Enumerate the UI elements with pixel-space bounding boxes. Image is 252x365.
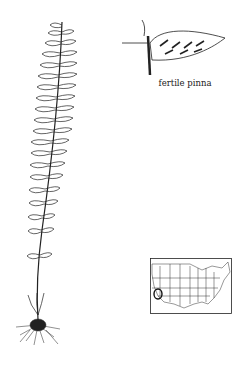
inset-caption: fertile pinna [150, 78, 220, 88]
pinnae [27, 23, 77, 259]
fertile-pinna-inset [120, 10, 230, 78]
roots [16, 319, 60, 345]
fern-illustration [0, 0, 130, 365]
rachis [37, 22, 62, 320]
range-map [150, 258, 232, 314]
